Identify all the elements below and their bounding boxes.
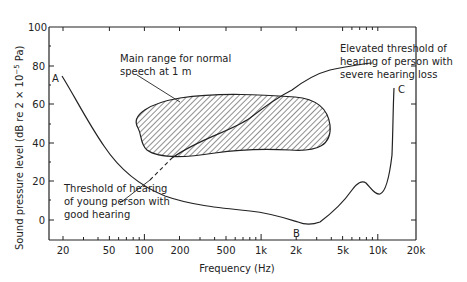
speech-range-region xyxy=(136,94,330,156)
svg-text:200: 200 xyxy=(170,245,189,256)
svg-text:0: 0 xyxy=(39,215,45,226)
speech-leader-line xyxy=(137,75,180,102)
threshold-annotation-1: Threshold of hearing xyxy=(63,183,167,194)
elevated-annotation-2: hearing of person with xyxy=(340,56,453,67)
svg-text:5k: 5k xyxy=(337,245,349,256)
y-tick-labels: 0 20 40 60 80 100 xyxy=(28,22,47,226)
y-axis-label: Sound pressure level (dB re 2 × 10−5 Pa) xyxy=(13,45,25,250)
svg-text:10k: 10k xyxy=(369,245,388,256)
speech-annotation-2: speech at 1 m xyxy=(120,66,191,77)
label-b: B xyxy=(293,228,300,239)
elevated-annotation-1: Elevated threshold of xyxy=(340,43,447,54)
svg-text:100: 100 xyxy=(134,245,153,256)
label-c: C xyxy=(398,84,405,95)
svg-text:500: 500 xyxy=(216,245,235,256)
threshold-annotation-2: of young person with xyxy=(64,196,170,207)
svg-text:80: 80 xyxy=(32,61,45,72)
hearing-threshold-chart: A B C Main range for normal speech at 1 … xyxy=(0,0,467,282)
svg-text:20: 20 xyxy=(32,176,45,187)
x-axis-label: Frequency (Hz) xyxy=(199,263,275,274)
svg-text:40: 40 xyxy=(32,138,45,149)
elevated-annotation-3: severe hearing loss xyxy=(340,69,437,80)
speech-annotation-1: Main range for normal xyxy=(120,53,231,64)
svg-text:20k: 20k xyxy=(407,245,426,256)
svg-text:20: 20 xyxy=(57,245,70,256)
svg-text:2k: 2k xyxy=(290,245,302,256)
label-a: A xyxy=(52,73,59,84)
svg-text:1k: 1k xyxy=(255,245,267,256)
x-tick-labels: 20 50 100 200 500 1k 2k 5k 10k 20k xyxy=(57,245,426,256)
threshold-annotation-3: good hearing xyxy=(64,209,130,220)
svg-text:50: 50 xyxy=(103,245,116,256)
svg-text:60: 60 xyxy=(32,99,45,110)
svg-text:100: 100 xyxy=(28,22,47,33)
elevated-threshold-dashed xyxy=(150,158,172,180)
